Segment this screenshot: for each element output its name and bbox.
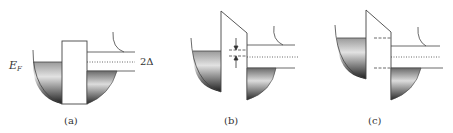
tilted-tunnel-barrier — [221, 11, 247, 100]
gap-label: 2Δ — [140, 56, 154, 67]
fermi-level-label: EF — [8, 59, 23, 73]
caption-a: (a) — [64, 115, 78, 126]
caption-b: (b) — [224, 115, 238, 126]
tilted-tunnel-barrier — [366, 10, 391, 100]
tunneling-diagram: EF 2Δ (a) (b) — [0, 0, 453, 133]
right-filled-states — [391, 68, 421, 100]
panel-b: (b) — [191, 11, 298, 126]
panel-a: EF 2Δ (a) — [8, 32, 154, 126]
right-filled-states — [247, 68, 276, 100]
right-empty-dos-curve — [113, 32, 124, 52]
bias-arrows-icon — [234, 38, 238, 68]
right-empty-dos-curve — [418, 27, 426, 46]
left-filled-states — [337, 38, 366, 79]
right-empty-dos-curve — [274, 26, 283, 45]
left-filled-states — [193, 51, 221, 92]
panel-c: (c) — [335, 10, 443, 126]
right-filled-states — [87, 71, 117, 104]
caption-c: (c) — [368, 115, 382, 126]
tunnel-barrier — [62, 41, 87, 104]
left-filled-states — [33, 62, 62, 104]
